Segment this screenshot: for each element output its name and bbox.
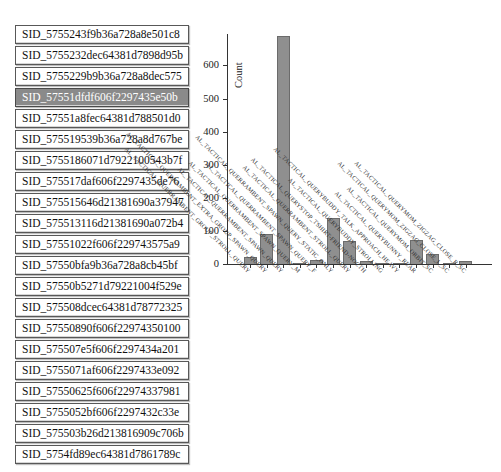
sid-list-item[interactable]: SID_57550b5271d79221004f529e: [15, 277, 189, 296]
app-window: SID_5755243f9b36a728a8e501c8SID_5755232d…: [0, 0, 501, 472]
bar: [343, 241, 356, 264]
x-tick-mark: [366, 265, 367, 268]
sid-list-item[interactable]: SID_57550bfa9b36a728a8cb45bf: [15, 256, 189, 275]
sid-list-item[interactable]: SID_5755186071d7922100543b7f: [15, 151, 189, 170]
bar: [360, 261, 373, 264]
x-axis-line: [227, 264, 492, 265]
y-tick-label: 300: [187, 160, 219, 170]
x-tick-mark: [300, 265, 301, 268]
bar: [393, 263, 406, 264]
bar: [310, 260, 323, 264]
x-tick-mark: [399, 265, 400, 268]
x-tick-mark: [383, 265, 384, 268]
sid-list-item[interactable]: SID_575519539b36a728a8d767be: [15, 130, 189, 149]
sid-list-item[interactable]: SID_575503b26d213816909c706b: [15, 424, 189, 443]
sid-list-item[interactable]: SID_5755232dec64381d7898d95b: [15, 46, 189, 65]
bar: [410, 240, 423, 264]
sid-list-item[interactable]: SID_57551a8fec64381d788501d0: [15, 109, 189, 128]
y-tick-mark: [223, 99, 227, 100]
x-tick-mark: [250, 265, 251, 268]
bar: [376, 263, 389, 264]
x-tick-label: AL_TACTICAL_QUERRAMBENT_SPAWN_QUERY_F: [205, 161, 318, 274]
bar: [293, 263, 306, 264]
y-tick-label: 200: [187, 193, 219, 203]
y-tick-label: 0: [187, 259, 219, 269]
x-tick-label: AL_TACTICAL_QUERYBUNNY_REAR: [334, 189, 418, 273]
sid-list-item[interactable]: SID_5755071af606f2297433e092: [15, 361, 189, 380]
x-tick-mark: [449, 265, 450, 268]
bar: [443, 263, 456, 264]
bar: [327, 218, 340, 264]
sid-list-item[interactable]: SID_5754fd89ec64381d7861789c: [15, 445, 189, 464]
y-tick-label: 500: [187, 94, 219, 104]
x-tick-label: AL_TACTICAL_QUERRAMBENT_SPAWN_QUERY_M: [187, 159, 302, 274]
sid-list-item[interactable]: SID_57550890f606f22974350100: [15, 319, 189, 338]
y-tick-label: 400: [187, 127, 219, 137]
x-tick-label: AL_TACTICAL_QUERYMOM_ZIGZAG_CLOSE_L_SC: [337, 159, 451, 273]
y-tick-mark: [223, 132, 227, 133]
x-tick-mark: [333, 265, 334, 268]
x-tick-mark: [433, 265, 434, 268]
x-tick-label: AL_TACTICAL_QUERYMOM_ORBIT_SC: [345, 185, 434, 274]
sid-list-item[interactable]: SID_5755052bf606f2297432c33e: [15, 403, 189, 422]
bar: [277, 36, 290, 264]
x-tick-mark: [267, 265, 268, 268]
y-axis-title: Count: [233, 36, 244, 88]
x-tick-label: AL_TACTICAL_QUERRAMBENT_STROLL_QUERY: [241, 163, 352, 274]
sid-list-item[interactable]: SID_575508dcec64381d78772325: [15, 298, 189, 317]
sid-list-item[interactable]: SID_575515646d21381690a37947: [15, 193, 189, 212]
bar: [244, 257, 257, 264]
bar: [260, 234, 273, 264]
y-tick-mark: [223, 264, 227, 265]
y-tick-mark: [223, 231, 227, 232]
sid-list-item[interactable]: SID_575507e5f606f2297434a201: [15, 340, 189, 359]
sid-list-item[interactable]: SID_57550625f606f22974337981: [15, 382, 189, 401]
y-tick-mark: [223, 165, 227, 166]
y-axis-line: [227, 34, 228, 265]
x-tick-mark: [466, 265, 467, 268]
x-tick-label: AL_TACTICAL_QUERRAMBENT_SPAWN_QUERY_STAT…: [194, 133, 335, 274]
sid-list-item[interactable]: SID_5755229b9b36a728a8dec575: [15, 67, 189, 86]
bar: [459, 261, 472, 264]
x-tick-label: AL_TACTICAL_QUERYBUDDY_STROLLING: [287, 176, 385, 274]
bar: [426, 254, 439, 264]
sid-list-item[interactable]: SID_57551022f606f229743575a9: [15, 235, 189, 254]
x-tick-label: AL_TACTICAL_QUERYSTOP_TSHIRT-FRIEND-NOCT…: [250, 156, 368, 274]
sid-list-item[interactable]: SID_575517daf606f2297435de76: [15, 172, 189, 191]
sid-list-item[interactable]: SID_575513116d21381690a072b4: [15, 214, 189, 233]
x-tick-mark: [350, 265, 351, 268]
y-tick-mark: [223, 198, 227, 199]
y-tick-label: 100: [187, 226, 219, 236]
x-tick-mark: [316, 265, 317, 268]
sid-list-item[interactable]: SID_5755243f9b36a728a8e501c8: [15, 25, 189, 44]
x-tick-mark: [283, 265, 284, 268]
x-tick-mark: [416, 265, 417, 268]
sid-list-item[interactable]: SID_57551dfdf606f2297435e50b: [15, 88, 189, 107]
y-tick-label: 600: [187, 60, 219, 70]
x-tick-label: AL_TACTICAL_QUERYBUDDY_TALK_APPROACH_HEA…: [273, 145, 402, 274]
x-tick-label: AL_TACTICAL_QUERRAMBENT_SPAWN_QUERY: [177, 165, 285, 273]
x-tick-label: AL_TACTICAL_QUERYMOM_ZIGZAG_CLOSE_R_SC: [353, 159, 468, 274]
y-tick-mark: [223, 65, 227, 66]
